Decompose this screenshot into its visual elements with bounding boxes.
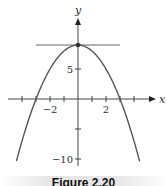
x-tick-label: −2 [43, 104, 58, 115]
figure-caption: Figure 2.20 [0, 177, 167, 186]
y-axis-arrow-icon [75, 18, 81, 25]
y-axis-label: y [74, 4, 82, 17]
x-axis-label: x [159, 93, 166, 106]
axes [8, 18, 156, 166]
axis-labels: −225−10xy [43, 4, 166, 165]
x-axis-arrow-icon [149, 96, 156, 102]
parabola-chart: −225−10xy [0, 0, 167, 176]
x-tick-label: 2 [103, 104, 109, 115]
y-tick-label: 5 [67, 64, 73, 75]
y-tick-label: −10 [52, 154, 73, 165]
vertex-point [76, 43, 81, 48]
